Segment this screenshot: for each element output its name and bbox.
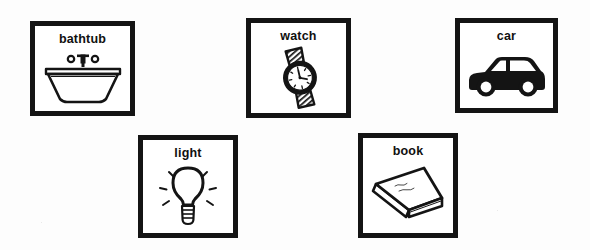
card-watch[interactable]: watch — [246, 18, 351, 118]
card-label-car: car — [497, 30, 516, 43]
card-art-car — [460, 43, 553, 109]
bathtub-icon — [40, 52, 126, 104]
card-label-watch: watch — [280, 30, 316, 43]
card-art-book — [363, 158, 453, 234]
card-label-bathtub: bathtub — [59, 33, 106, 46]
card-art-light — [143, 160, 233, 234]
card-book[interactable]: book — [358, 133, 458, 238]
card-bathtub[interactable]: bathtub — [30, 21, 135, 116]
watch-icon — [267, 46, 331, 110]
scan-speckle — [41, 222, 42, 223]
card-label-book: book — [393, 145, 424, 158]
card-light[interactable]: light — [138, 135, 238, 238]
card-art-bathtub — [35, 46, 130, 112]
card-label-light: light — [174, 147, 201, 160]
lightbulb-icon — [152, 161, 224, 231]
car-icon — [465, 52, 549, 98]
flashcard-sheet: bathtub watc — [0, 0, 590, 250]
card-art-watch — [251, 43, 346, 114]
scan-speckle — [497, 210, 498, 211]
book-icon — [368, 164, 448, 226]
card-car[interactable]: car — [455, 18, 558, 113]
